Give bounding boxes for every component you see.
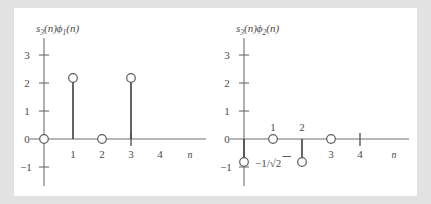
left-ytick-label-0: 0 [24,133,30,145]
neg-one-over-sqrt-two-annotation: −1/√2 [255,157,291,170]
right-ytick-label-2: 2 [224,77,230,89]
left-marker-n1 [69,74,78,83]
left-marker-n2 [98,135,107,144]
figure-frame: s3(n)ϕ1(n) 3 2 1 0 −1 1 2 3 4 [14,8,417,196]
right-stem-plot-panel: s3(n)ϕ2(n) 3 2 1 0 −1 1 2 3 4 [214,8,417,196]
right-ytick-label-minus1: −1 [220,161,232,173]
right-xtick-label-2: 2 [299,121,305,133]
left-xtick-label-3: 3 [128,148,134,160]
right-xtick-label-3: 3 [328,148,334,160]
right-marker-n3 [327,135,336,144]
left-marker-n0 [40,135,49,144]
right-xtick-label-4: 4 [357,148,363,160]
right-marker-n2 [298,158,307,167]
right-plot-title: s3(n)ϕ2(n) [236,22,279,37]
neg-one-over-sqrt-two-text: −1/√2 [255,157,281,169]
left-ytick-label-minus1: −1 [20,161,32,173]
left-ytick-label-2: 2 [24,77,30,89]
left-xtick-label-4: 4 [157,148,163,160]
left-xtick-label-2: 2 [99,148,105,160]
right-xtick-label-1: 1 [270,121,276,133]
right-plot-svg: s3(n)ϕ2(n) 3 2 1 0 −1 1 2 3 4 [214,8,417,196]
right-marker-n0 [240,158,249,167]
left-stem-plot-panel: s3(n)ϕ1(n) 3 2 1 0 −1 1 2 3 4 [14,8,214,196]
right-ytick-label-1: 1 [224,105,230,117]
left-ytick-label-3: 3 [24,49,30,61]
right-ytick-label-0: 0 [224,133,230,145]
left-plot-svg: s3(n)ϕ1(n) 3 2 1 0 −1 1 2 3 4 [14,8,214,196]
right-ytick-label-3: 3 [224,49,230,61]
right-x-axis-name: n [392,149,397,160]
left-marker-n3 [127,74,136,83]
left-plot-title: s3(n)ϕ1(n) [36,22,79,37]
left-x-axis-name: n [188,149,193,160]
right-marker-n1 [269,135,278,144]
left-xtick-label-1: 1 [70,148,76,160]
left-ytick-label-1: 1 [24,105,30,117]
